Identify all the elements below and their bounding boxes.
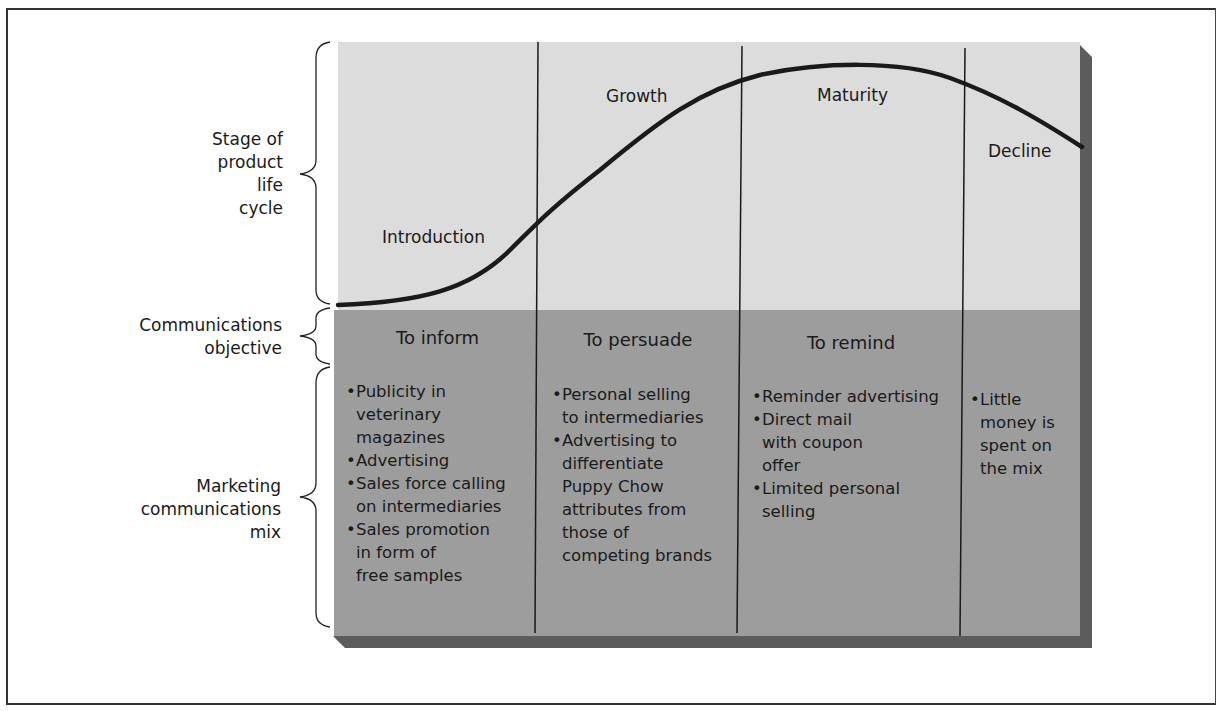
mix-item: Direct mailwith couponoffer: [752, 408, 957, 477]
lifecycle-panel: [338, 42, 1080, 312]
mix-maturity: Reminder advertising Direct mailwith cou…: [752, 385, 957, 523]
mix-item: Reminder advertising: [752, 385, 957, 408]
objective-maturity: To remind: [745, 332, 957, 353]
mix-item: Advertising: [346, 449, 534, 472]
mix-item: Littlemoney isspent onthe mix: [970, 388, 1075, 480]
row-label-mix: Marketing communications mix: [100, 475, 281, 544]
brace-objective: [300, 308, 330, 364]
mix-item: Limited personalselling: [752, 477, 957, 523]
stage-introduction: Introduction: [382, 227, 485, 247]
row-label-stage: Stage of product life cycle: [150, 128, 283, 220]
stage-maturity: Maturity: [817, 85, 888, 105]
mix-growth: Personal sellingto intermediaries Advert…: [552, 383, 737, 567]
mix-item: Publicity inveterinarymagazines: [346, 380, 534, 449]
mix-item: Sales force callingon intermediaries: [346, 472, 534, 518]
mix-item: Advertising todifferentiatePuppy Chowatt…: [552, 429, 737, 567]
mix-item: Personal sellingto intermediaries: [552, 383, 737, 429]
stage-growth: Growth: [606, 86, 668, 106]
stage-decline: Decline: [988, 141, 1052, 161]
mix-introduction: Publicity inveterinarymagazines Advertis…: [346, 380, 534, 587]
row-label-objective: Communications objective: [100, 314, 282, 360]
objective-introduction: To inform: [340, 327, 535, 348]
objective-growth: To persuade: [538, 329, 738, 350]
brace-stage: [300, 42, 330, 304]
mix-decline: Littlemoney isspent onthe mix: [970, 388, 1075, 480]
mix-item: Sales promotionin form offree samples: [346, 518, 534, 587]
brace-mix: [300, 367, 330, 627]
